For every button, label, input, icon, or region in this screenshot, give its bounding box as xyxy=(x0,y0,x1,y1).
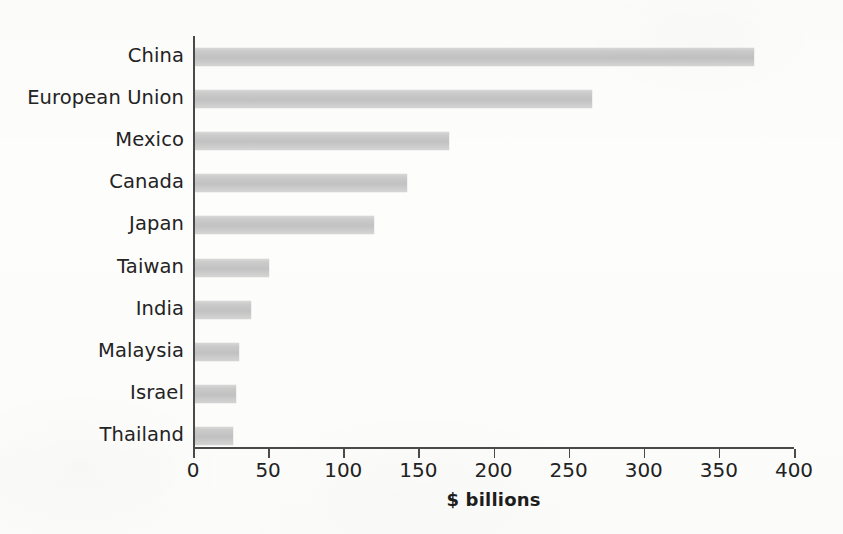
axis-tick xyxy=(719,449,721,458)
category-label: China xyxy=(0,44,193,67)
category-label: Mexico xyxy=(0,128,193,151)
axis-tick-label: 150 xyxy=(378,458,458,482)
horizontal-bar-chart: ChinaEuropean UnionMexicoCanadaJapanTaiw… xyxy=(0,0,843,534)
value-axis-line xyxy=(193,36,195,448)
axis-tick-label: 350 xyxy=(679,458,759,482)
bar xyxy=(195,90,592,108)
category-label: Thailand xyxy=(0,423,193,446)
axis-tick-label: 100 xyxy=(303,458,383,482)
axis-tick xyxy=(794,449,796,458)
bar xyxy=(195,385,236,403)
bar xyxy=(195,48,754,66)
axis-tick xyxy=(193,449,195,458)
axis-tick-label: 0 xyxy=(153,458,233,482)
value-axis-title: $ billions xyxy=(193,489,794,510)
bar xyxy=(195,343,239,361)
axis-tick xyxy=(494,449,496,458)
bar xyxy=(195,216,374,234)
category-label: Japan xyxy=(0,212,193,235)
axis-tick-label: 200 xyxy=(454,458,534,482)
category-label: India xyxy=(0,297,193,320)
axis-tick-label: 50 xyxy=(228,458,308,482)
category-label: Malaysia xyxy=(0,339,193,362)
category-label: Canada xyxy=(0,170,193,193)
bar xyxy=(195,427,233,445)
axis-tick-label: 250 xyxy=(529,458,609,482)
axis-tick xyxy=(343,449,345,458)
category-label: Israel xyxy=(0,381,193,404)
bar xyxy=(195,301,251,319)
category-label: European Union xyxy=(0,86,193,109)
bar xyxy=(195,259,269,277)
axis-tick-label: 300 xyxy=(604,458,684,482)
axis-tick xyxy=(569,449,571,458)
category-label: Taiwan xyxy=(0,255,193,278)
bar xyxy=(195,174,407,192)
axis-tick xyxy=(418,449,420,458)
axis-tick-label: 400 xyxy=(754,458,834,482)
bar xyxy=(195,132,449,150)
chart-screenshot: ChinaEuropean UnionMexicoCanadaJapanTaiw… xyxy=(0,0,843,534)
axis-tick xyxy=(644,449,646,458)
axis-tick xyxy=(268,449,270,458)
